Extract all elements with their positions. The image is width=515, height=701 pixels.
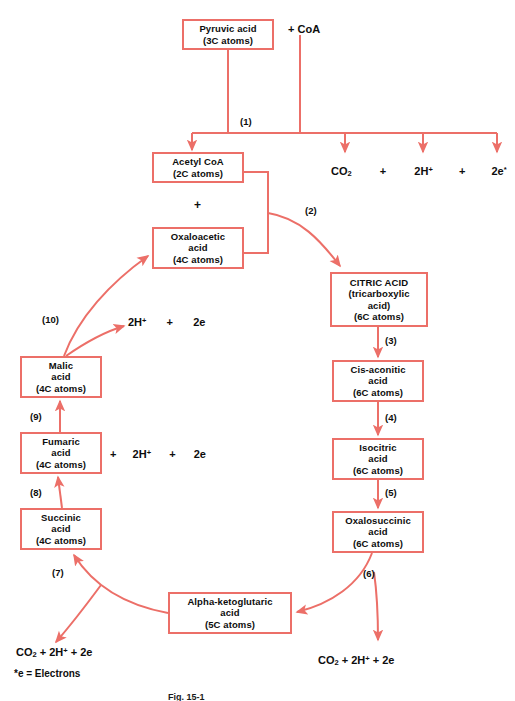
product-co2-label: CO [331,165,348,177]
product-electron-asterisk: * [504,165,507,174]
wire-step7-to-succinic [74,555,168,613]
product-electron-label: 2e [492,165,504,177]
fumaric-hydrogen-label: 2H [133,448,147,460]
node-citric-acid[interactable]: CITRIC ACID (tricarboxylic acid) (6C ato… [330,272,428,327]
node-cis-aconitic-acid[interactable]: Cis-aconitic acid (6C atoms) [332,360,424,402]
product-right-decarboxylation: CO2 + 2H+ + 2e [318,653,394,668]
node-isocitric-acid-line3: (6C atoms) [353,465,403,477]
step-label-4: (4) [385,412,397,423]
node-citric-acid-line3: acid) [368,300,391,312]
node-malic-acid[interactable]: Malic acid (4C atoms) [20,356,102,398]
footnote-electrons: *e = Electrons [14,668,80,679]
node-fumaric-acid-line2: acid [51,447,70,459]
right-rest-tail: + 2e [373,654,395,666]
left-co2-label: CO [16,646,33,658]
left-rest-tail: + 2e [71,646,93,658]
node-cis-aconitic-acid-line2: acid [368,375,387,387]
product-malic-hydrogens: 2H+ + 2e [128,315,205,328]
node-oxalosuccinic-acid[interactable]: Oxalosuccinic acid (6C atoms) [332,511,424,553]
node-acetyl-coa-line2: (2C atoms) [173,168,223,180]
wire-step6-byproduct [374,572,378,640]
product-hydrogen-charge: + [428,165,432,174]
product-hydrogen-label: 2H [414,165,428,177]
product-co2-subscript: 2 [348,169,352,178]
node-succinic-acid[interactable]: Succinic acid (4C atoms) [20,508,102,550]
node-oxalosuccinic-acid-line2: acid [368,526,387,538]
product-fumaric-hydrogens: + 2H+ + 2e [110,447,206,460]
node-alpha-ketoglutaric-acid-line3: (5C atoms) [205,619,255,631]
node-malic-acid-line2: acid [51,371,70,383]
wire-malic-hydrogens [66,326,124,356]
node-succinic-acid-line2: acid [51,523,70,535]
left-rest-plus: + 2H [40,646,64,658]
node-citric-acid-line2: (tricarboxylic [348,288,409,300]
right-rest-charge: + [365,654,369,663]
node-isocitric-acid-line1: Isocitric [359,442,396,454]
reagent-coa: + CoA [288,24,320,35]
step-label-7: (7) [52,567,64,578]
wire-step10-to-oxaloacetic [64,256,148,356]
wire-step7-byproduct [56,585,101,642]
node-fumaric-acid-line3: (4C atoms) [36,459,86,471]
step-label-9: (9) [30,411,42,422]
product-left-decarboxylation: CO2 + 2H+ + 2e [16,645,92,660]
node-alpha-ketoglutaric-acid-line2: acid [220,607,239,619]
node-pyruvic-acid[interactable]: Pyruvic acid (3C atoms) [182,19,274,50]
node-oxaloacetic-acid-line3: (4C atoms) [173,254,223,266]
step-label-3: (3) [385,335,397,346]
fumaric-electron-label: 2e [194,448,206,460]
malic-electron-label: 2e [193,316,205,328]
product-plus-1: + [380,165,386,177]
node-oxalosuccinic-acid-line1: Oxalosuccinic [345,515,411,527]
node-oxaloacetic-acid[interactable]: Oxaloacetic acid (4C atoms) [152,227,244,269]
malic-plus: + [167,316,173,328]
node-isocitric-acid[interactable]: Isocitric acid (6C atoms) [332,438,424,480]
node-malic-acid-line3: (4C atoms) [36,383,86,395]
product-plus-2: + [459,165,465,177]
figure-caption: Fig. 15-1 [168,692,205,701]
node-cis-aconitic-acid-line3: (6C atoms) [353,387,403,399]
product-pyruvate-oxidation: CO2 + 2H+ + 2e* [331,164,507,179]
node-oxaloacetic-acid-line2: acid [188,242,207,254]
node-citric-acid-line1: CITRIC ACID [350,277,408,289]
node-acetyl-coa-line1: Acetyl CoA [172,156,224,168]
node-acetyl-coa[interactable]: Acetyl CoA (2C atoms) [152,152,244,183]
node-oxaloacetic-acid-line1: Oxaloacetic [171,231,225,243]
node-alpha-ketoglutaric-acid[interactable]: Alpha-ketoglutaric acid (5C atoms) [168,592,292,634]
left-co2-subscript: 2 [33,650,37,659]
malic-hydrogen-label: 2H [128,316,142,328]
wire-step8 [58,477,62,508]
node-alpha-ketoglutaric-acid-line1: Alpha-ketoglutaric [187,596,272,608]
step-label-10: (10) [42,314,59,325]
node-cis-aconitic-acid-line1: Cis-aconitic [350,364,405,376]
step-label-2: (2) [305,205,317,216]
malic-hydrogen-charge: + [142,316,146,325]
step-label-5: (5) [385,487,397,498]
step-label-1: (1) [240,116,252,127]
node-malic-acid-line1: Malic [49,360,73,372]
node-succinic-acid-line3: (4C atoms) [36,535,86,547]
right-co2-subscript: 2 [335,658,339,667]
krebs-cycle-figure: Pyruvic acid (3C atoms) Acetyl CoA (2C a… [0,0,515,701]
node-pyruvic-acid-line2: (3C atoms) [203,35,253,47]
wire-step6-to-akg [297,553,372,612]
node-pyruvic-acid-line1: Pyruvic acid [199,23,256,35]
fumaric-leading-plus: + [110,448,116,460]
step-label-6: (6) [363,568,375,579]
fumaric-hydrogen-charge: + [147,448,151,457]
node-oxalosuccinic-acid-line3: (6C atoms) [353,538,403,550]
right-rest-plus: + 2H [342,654,366,666]
wire-condensation-bracket [244,172,268,253]
node-fumaric-acid[interactable]: Fumaric acid (4C atoms) [20,432,102,474]
left-rest-charge: + [63,646,67,655]
plus-acetyl-oxaloacetic: + [194,199,201,211]
right-co2-label: CO [318,654,335,666]
node-succinic-acid-line1: Succinic [41,512,81,524]
step-label-8: (8) [30,487,42,498]
node-isocitric-acid-line2: acid [368,453,387,465]
node-fumaric-acid-line1: Fumaric [42,436,80,448]
node-citric-acid-line4: (6C atoms) [354,311,404,323]
wire-step2-to-citric [268,213,340,266]
fumaric-plus: + [169,448,175,460]
